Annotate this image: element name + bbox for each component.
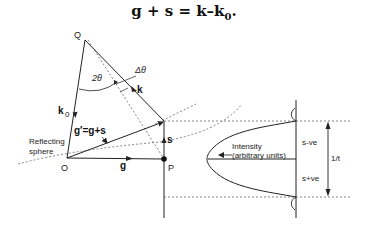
label-intensity: Intensity	[232, 142, 262, 151]
s-arrow-icon	[162, 137, 167, 143]
label-p: P	[168, 163, 174, 173]
ewald-sphere-diagram: Q O P k 0 k g s g′=g+s 2θ Δθ Reflecting …	[0, 0, 368, 230]
label-s-positive: s+ve	[302, 174, 320, 183]
point-p	[161, 156, 167, 162]
g-arrow-icon	[126, 156, 133, 161]
two-theta-arc	[79, 82, 117, 91]
label-o: O	[61, 163, 68, 173]
label-two-theta: 2θ	[91, 73, 102, 83]
label-g: g	[120, 160, 126, 171]
label-arbitrary-units: (arbitrary units)	[232, 151, 286, 160]
dashed-k-to-p	[88, 40, 164, 159]
k0-vector-line	[67, 40, 85, 158]
label-q: Q	[74, 30, 81, 40]
label-k0-sub: 0	[65, 110, 70, 119]
label-sphere: sphere	[29, 147, 54, 156]
label-s-negative: s-ve	[302, 138, 318, 147]
side-lobe-top	[291, 108, 296, 121]
side-lobe-bottom	[291, 197, 296, 210]
g-vector-line	[67, 158, 164, 159]
label-g-prime: g′=g+s	[74, 125, 106, 136]
label-thickness: 1/t	[331, 154, 341, 163]
label-k0: k	[58, 105, 64, 116]
label-k: k	[137, 84, 143, 95]
label-s: s	[167, 134, 173, 145]
label-reflecting: Reflecting	[29, 137, 65, 146]
label-delta-theta: Δθ	[134, 65, 146, 75]
